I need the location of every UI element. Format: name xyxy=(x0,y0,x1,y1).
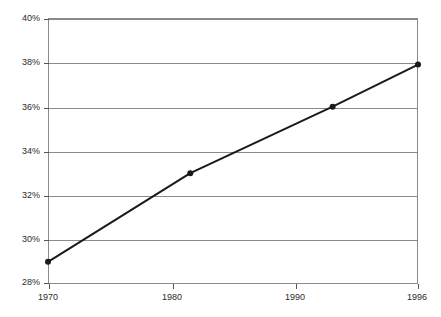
gridline-36 xyxy=(49,108,417,109)
y-axis-tick-label: 32% xyxy=(22,190,40,200)
ytick-mark-32 xyxy=(44,196,49,197)
ytick-mark-38 xyxy=(44,63,49,64)
y-axis-tick-label: 40% xyxy=(22,13,40,23)
ytick-mark-34 xyxy=(44,152,49,153)
ytick-mark-40 xyxy=(44,19,49,20)
y-axis-tick-label: 30% xyxy=(22,234,40,244)
xtick-mark-1996 xyxy=(418,284,419,289)
y-axis-tick-label: 38% xyxy=(22,57,40,67)
y-axis-labels: 40% 38% 36% 34% 32% 30% 28% xyxy=(0,0,44,317)
xtick-mark-1990 xyxy=(296,284,297,289)
ytick-mark-36 xyxy=(44,108,49,109)
x-axis-tick-label: 1996 xyxy=(407,292,427,302)
y-axis-tick-label: 36% xyxy=(22,102,40,112)
gridline-40 xyxy=(49,19,417,20)
plot-area xyxy=(48,18,418,284)
x-axis-tick-label: 1970 xyxy=(38,292,58,302)
gridline-32 xyxy=(49,196,417,197)
gridline-38 xyxy=(49,63,417,64)
y-axis-tick-label: 28% xyxy=(22,277,40,287)
xtick-mark-1970 xyxy=(49,284,50,289)
gridline-28 xyxy=(49,283,417,284)
gridline-30 xyxy=(49,240,417,241)
gridline-34 xyxy=(49,152,417,153)
x-axis-tick-label: 1990 xyxy=(285,292,305,302)
y-axis-tick-label: 34% xyxy=(22,146,40,156)
xtick-mark-1980 xyxy=(173,284,174,289)
line-chart: 40% 38% 36% 34% 32% 30% 28% 1970 1980 19… xyxy=(0,0,441,317)
ytick-mark-30 xyxy=(44,240,49,241)
x-axis-tick-label: 1980 xyxy=(162,292,182,302)
